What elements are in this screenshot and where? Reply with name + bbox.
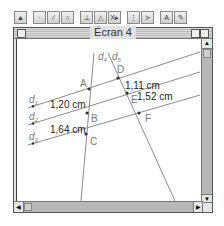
point-label-A: A	[80, 78, 87, 89]
geometry-figure: d1d2d3d4d5ABCDEF1,20 cm1,64 cm1,11 cm1,5…	[0, 0, 224, 226]
line-label-d2: d2	[29, 111, 39, 123]
line-label-d5: d5	[112, 51, 122, 63]
point-B[interactable]	[85, 111, 88, 114]
line-label-d4: d4	[98, 51, 108, 63]
point-label-C: C	[90, 136, 97, 147]
point-A[interactable]	[87, 87, 90, 90]
measurement-m4[interactable]: 1,52 cm	[137, 91, 173, 102]
line-label-d3: d3	[29, 131, 39, 143]
measurement-m2[interactable]: 1,64 cm	[50, 124, 86, 135]
point-F[interactable]	[137, 111, 140, 114]
measurement-m1[interactable]: 1,20 cm	[50, 99, 86, 110]
point-label-F: F	[145, 113, 151, 124]
point-label-B: B	[91, 113, 98, 124]
point-label-D: D	[117, 64, 124, 75]
measurement-m3[interactable]: 1,11 cm	[125, 80, 160, 91]
point-D[interactable]	[116, 76, 119, 79]
point-E[interactable]	[125, 91, 128, 94]
line-label-d1: d1	[29, 94, 38, 106]
